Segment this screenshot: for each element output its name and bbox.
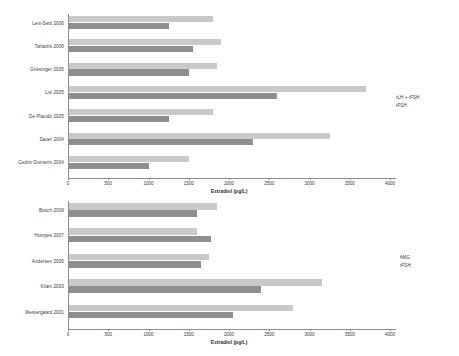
x-axis-tick — [350, 178, 351, 180]
legend: rLH + rFSHrFSH — [396, 94, 419, 109]
bar — [69, 163, 149, 169]
x-axis-tick-label: 3500 — [345, 181, 355, 186]
bar — [69, 203, 217, 210]
x-axis-tick-label: 1000 — [143, 181, 153, 186]
category-label: Cedrin-Durnerin 2004 — [0, 160, 64, 165]
x-axis-tick-label: 3500 — [345, 332, 355, 337]
category-label: Andersen 2006 — [0, 258, 64, 263]
x-axis-line — [68, 329, 396, 330]
category-label: Kilani 2003 — [0, 284, 64, 289]
x-axis-tick-label: 500 — [104, 332, 112, 337]
x-axis-tick — [189, 178, 190, 180]
x-axis-tick-label: 2000 — [224, 332, 234, 337]
x-axis-tick-label: 500 — [104, 181, 112, 186]
bar — [69, 86, 366, 92]
category-label: De Placido 2005 — [0, 113, 64, 118]
x-axis-tick-label: 1500 — [184, 332, 194, 337]
x-axis-tick — [350, 329, 351, 331]
bar — [69, 139, 253, 145]
category-label: Griesinger 2005 — [0, 67, 64, 72]
figure-root: 05001000150020002500300035004000Estradio… — [0, 0, 459, 356]
x-axis-tick-label: 0 — [67, 181, 70, 186]
x-axis-tick — [189, 329, 190, 331]
bar — [69, 39, 221, 45]
bar — [69, 279, 322, 286]
x-axis-tick — [108, 178, 109, 180]
x-axis-tick-label: 4000 — [385, 181, 395, 186]
x-axis-tick-label: 2000 — [224, 181, 234, 186]
category-label: Sauer 2004 — [0, 137, 64, 142]
category-label: Hompes 2007 — [0, 233, 64, 238]
x-axis-tick — [310, 329, 311, 331]
x-axis-tick — [149, 329, 150, 331]
category-label: Lisi 2005 — [0, 90, 64, 95]
legend-item: hMG — [400, 254, 411, 262]
bar — [69, 109, 213, 115]
bar — [69, 63, 217, 69]
bar — [69, 228, 197, 235]
bar — [69, 69, 189, 75]
category-label: Levi-Setti 2006 — [0, 20, 64, 25]
x-axis-line — [68, 178, 396, 179]
x-axis-tick — [269, 178, 270, 180]
chart-bottom: 05001000150020002500300035004000Estradio… — [0, 196, 459, 356]
category-label: Bosch 2008 — [0, 207, 64, 212]
bar — [69, 46, 193, 52]
bar — [69, 16, 213, 22]
x-axis-tick-label: 1000 — [143, 332, 153, 337]
x-axis-title: Estradiol (pg/L) — [211, 188, 248, 194]
x-axis-tick — [310, 178, 311, 180]
legend: hMGrFSH — [400, 254, 411, 269]
x-axis-tick — [390, 178, 391, 180]
x-axis-tick — [269, 329, 270, 331]
x-axis-tick-label: 3000 — [304, 181, 314, 186]
category-label: Tarlatzis 2006 — [0, 43, 64, 48]
x-axis-tick — [229, 178, 230, 180]
x-axis-title: Estradiol (pg/L) — [211, 339, 248, 345]
x-axis-tick-label: 0 — [67, 332, 70, 337]
bar — [69, 261, 201, 268]
x-axis-tick — [149, 178, 150, 180]
x-axis-tick — [229, 329, 230, 331]
bar — [69, 23, 169, 29]
legend-item: rFSH — [400, 262, 411, 270]
bar — [69, 133, 330, 139]
category-label: Westergaard 2001 — [0, 309, 64, 314]
x-axis-tick-label: 2500 — [264, 181, 274, 186]
legend-item: rFSH — [396, 102, 419, 110]
bar — [69, 156, 189, 162]
bar — [69, 305, 293, 312]
x-axis-tick-label: 1500 — [184, 181, 194, 186]
x-axis-tick — [68, 329, 69, 331]
x-axis-tick — [390, 329, 391, 331]
chart-top: 05001000150020002500300035004000Estradio… — [0, 0, 459, 196]
bar — [69, 254, 209, 261]
bar — [69, 93, 277, 99]
bar — [69, 116, 169, 122]
bar — [69, 312, 233, 319]
x-axis-tick-label: 2500 — [264, 332, 274, 337]
legend-item: rLH + rFSH — [396, 94, 419, 102]
x-axis-tick — [108, 329, 109, 331]
bar — [69, 286, 261, 293]
x-axis-tick-label: 3000 — [304, 332, 314, 337]
artifact-dot: · — [47, 30, 48, 35]
x-axis-tick — [68, 178, 69, 180]
bar — [69, 210, 197, 217]
x-axis-tick-label: 4000 — [385, 332, 395, 337]
bar — [69, 236, 211, 243]
